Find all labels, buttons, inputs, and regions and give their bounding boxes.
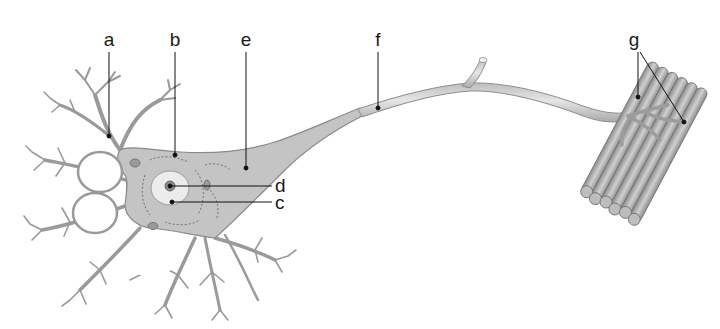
axon: [358, 83, 632, 122]
label-a: a: [104, 30, 115, 49]
label-b: b: [170, 30, 181, 49]
label-e: e: [241, 30, 252, 49]
cell-body: [118, 108, 362, 238]
label-f: f: [375, 30, 380, 49]
label-c: c: [275, 193, 285, 212]
muscle-fiber-bundle: [578, 60, 709, 227]
label-g: g: [629, 30, 640, 49]
